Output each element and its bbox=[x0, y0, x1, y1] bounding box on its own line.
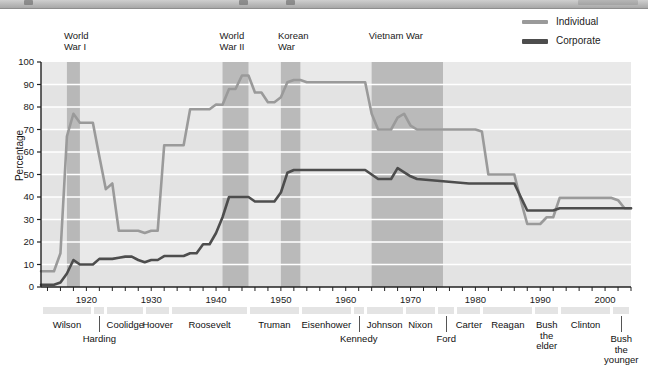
plot-band bbox=[41, 175, 631, 198]
x-tick-label: 1930 bbox=[141, 294, 162, 305]
y-axis-title: Percentage bbox=[14, 116, 25, 196]
y-tick-label: 50 bbox=[23, 169, 34, 180]
plot-band bbox=[41, 265, 631, 288]
y-tick-label: 60 bbox=[23, 146, 34, 157]
y-tick-label: 90 bbox=[23, 79, 34, 90]
y-tick-label: 20 bbox=[23, 236, 34, 247]
x-tick-label: 1980 bbox=[465, 294, 486, 305]
x-tick-label: 1920 bbox=[76, 294, 97, 305]
y-tick-label: 40 bbox=[23, 191, 34, 202]
x-tick-label: 1960 bbox=[335, 294, 356, 305]
y-tick-label: 30 bbox=[23, 214, 34, 225]
y-tick-label: 100 bbox=[18, 56, 34, 67]
y-tick-label: 70 bbox=[23, 124, 34, 135]
x-tick-label: 2000 bbox=[594, 294, 615, 305]
x-tick-label: 1950 bbox=[270, 294, 291, 305]
plot-band bbox=[41, 130, 631, 153]
y-tick-label: 80 bbox=[23, 101, 34, 112]
x-tick-label: 1940 bbox=[205, 294, 226, 305]
y-tick-label: 0 bbox=[29, 281, 34, 292]
x-tick-label: 1990 bbox=[530, 294, 551, 305]
plot-band bbox=[41, 85, 631, 108]
y-tick-label: 10 bbox=[23, 259, 34, 270]
x-tick-label: 1970 bbox=[400, 294, 421, 305]
